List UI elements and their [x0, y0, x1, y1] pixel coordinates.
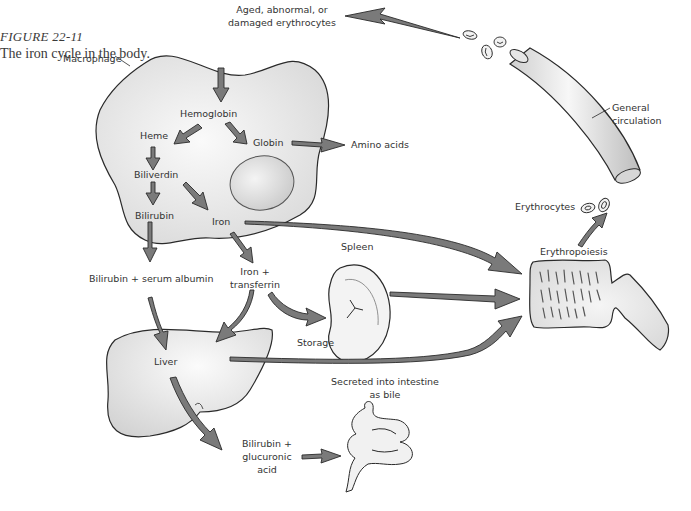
label-amino-acids: Amino acids	[351, 138, 409, 151]
label-bilirubin: Bilirubin	[135, 209, 174, 222]
label-secreted-into-intestine: Secreted into intestine as bile	[325, 375, 445, 401]
label-macrophage: Macrophage	[63, 52, 122, 65]
label-erythrocytes: Erythrocytes	[515, 200, 575, 213]
arrow-spleen-to-bone-marrow	[390, 289, 520, 309]
arrow-to-aged-erythrocytes	[345, 8, 460, 38]
label-erythropoiesis: Erythropoiesis	[540, 245, 608, 258]
arrow-iron-to-bone-marrow	[245, 221, 522, 274]
erythrocytes-cells	[580, 197, 611, 215]
liver-organ	[107, 328, 273, 437]
label-heme: Heme	[140, 129, 168, 142]
label-spleen: Spleen	[341, 240, 373, 253]
label-aged-erythrocytes: Aged, abnormal, or damaged erythrocytes	[222, 3, 342, 29]
aged-erythrocytes-cells	[462, 29, 506, 60]
intestine-organ	[346, 402, 412, 493]
iron-cycle-diagram: FIGURE 22-11 The iron cycle in the body.…	[0, 0, 691, 511]
label-bilirubin-glucuronic-acid: Bilirubin + glucuronic acid	[235, 437, 299, 476]
arrow-to-intestine	[302, 449, 341, 463]
label-general-circulation: General circulation	[612, 101, 661, 127]
label-iron: Iron	[212, 215, 230, 228]
label-liver: Liver	[154, 355, 177, 368]
label-hemoglobin: Hemoglobin	[180, 107, 237, 120]
arrow-to-erythrocytes	[578, 213, 607, 247]
arrow-to-storage	[268, 292, 326, 326]
label-biliverdin: Biliverdin	[134, 168, 178, 181]
label-globin: Globin	[253, 136, 284, 149]
label-storage: Storage	[297, 336, 334, 349]
figure-number: FIGURE 22-11	[0, 28, 150, 45]
spleen-organ	[329, 265, 391, 362]
label-iron-transferrin: Iron + transferrin	[225, 265, 285, 291]
bone-marrow	[530, 260, 669, 350]
label-bilirubin-serum-albumin: Bilirubin + serum albumin	[89, 272, 213, 285]
